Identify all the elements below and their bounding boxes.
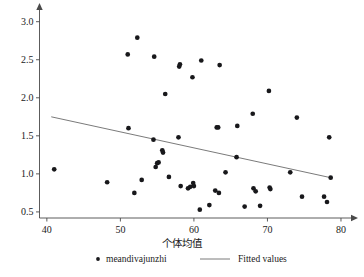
y-tick-label: 1.5 [21,130,34,141]
y-axis-tick-labels: 0.51.01.52.02.53.0 [21,16,34,217]
scatter-point [167,175,172,180]
scatter-plot: 0.51.01.52.02.53.0 4050607080 个体均值 meand… [0,0,364,277]
scatter-point [190,75,195,80]
x-tick-label: 50 [115,224,125,235]
scatter-point [217,191,222,196]
fitted-values-line [51,117,330,178]
scatter-point [207,203,212,208]
scatter-point [216,125,221,130]
legend-label-meandivajunzhi: meandivajunzhi [106,254,167,264]
scatter-point [223,170,228,175]
scatter-point [52,167,57,172]
legend-marker-icon [96,257,100,261]
scatter-point [139,178,144,183]
scatter-point [125,52,130,57]
scatter-point [327,135,332,140]
scatter-point [258,203,263,208]
scatter-point [328,175,333,180]
axes [36,3,358,221]
scatter-point [161,150,166,155]
legend-label-fitted-values: Fitted values [238,254,287,264]
scatter-point [322,194,327,199]
scatter-point [132,191,137,196]
scatter-points [52,35,333,212]
scatter-point [295,115,300,120]
x-tick-label: 70 [262,224,272,235]
scatter-point [253,189,258,194]
x-axis-title: 个体均值 [162,237,203,249]
scatter-point [151,137,156,142]
scatter-point [197,207,202,212]
scatter-point [267,89,272,94]
scatter-point [176,135,181,140]
scatter-point [105,180,110,185]
y-tick-label: 0.5 [21,206,34,217]
scatter-point [242,204,247,209]
scatter-point [300,194,305,199]
chart-figure: 0.51.01.52.02.53.0 4050607080 个体均值 meand… [0,0,364,277]
scatter-point [178,184,183,189]
x-tick-label: 60 [189,224,199,235]
scatter-point [288,170,293,175]
x-axis-tick-labels: 4050607080 [42,224,346,235]
scatter-point [192,184,197,189]
y-tick-label: 2.0 [21,92,34,103]
scatter-point [235,124,240,129]
scatter-point [156,160,161,165]
scatter-point [325,200,330,205]
scatter-point [234,155,239,160]
scatter-point [163,92,168,97]
scatter-point [199,58,204,63]
y-tick-label: 3.0 [21,16,34,27]
scatter-point [250,111,255,116]
x-tick-label: 80 [336,224,346,235]
scatter-point [217,63,222,68]
x-tick-label: 40 [42,224,52,235]
chart-legend: meandivajunzhiFitted values [96,254,287,264]
y-tick-label: 2.5 [21,54,34,65]
scatter-point [178,62,183,67]
scatter-point [135,35,140,40]
tick-marks [36,22,341,222]
scatter-point [268,187,273,192]
y-tick-label: 1.0 [21,168,34,179]
scatter-point [152,54,157,59]
scatter-point [126,126,131,131]
